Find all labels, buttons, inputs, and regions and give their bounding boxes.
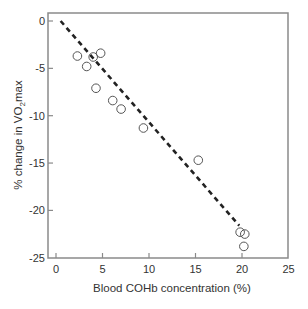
data-point-circle (108, 96, 117, 105)
y-axis-title-prefix: % change in VO (12, 106, 24, 189)
data-point-circle (82, 62, 91, 71)
plot-frame (48, 13, 288, 258)
data-point-circle (194, 156, 203, 165)
x-tick-label: 0 (53, 263, 59, 275)
data-point-circle (92, 84, 101, 93)
data-point-circle (73, 52, 82, 61)
x-tick-label: 20 (236, 263, 248, 275)
x-axis-title: Blood COHb concentration (%) (93, 282, 251, 294)
scatter-chart: 0510152025 0-5-10-15-20-25 Blood COHb co… (0, 0, 308, 309)
y-tick-label: -10 (29, 110, 45, 122)
y-tick-label: -5 (35, 62, 45, 74)
data-point-circle (96, 49, 105, 58)
x-tick-label: 5 (99, 263, 105, 275)
y-axis-title-suffix: max (12, 80, 24, 102)
x-tick-label: 10 (143, 263, 155, 275)
y-axis-ticks: 0-5-10-15-20-25 (29, 15, 53, 264)
data-point-circle (117, 105, 126, 114)
x-axis-ticks: 0510152025 (53, 253, 295, 275)
data-point-circle (240, 242, 249, 251)
x-tick-label: 25 (282, 263, 294, 275)
y-tick-label: 0 (39, 15, 45, 27)
data-point-circle (240, 230, 249, 239)
data-point-circle (139, 124, 148, 133)
y-tick-label: -15 (29, 157, 45, 169)
y-axis-title: % change in VO2max (12, 80, 27, 190)
y-tick-label: -20 (29, 204, 45, 216)
x-tick-label: 15 (189, 263, 201, 275)
regression-line (61, 21, 240, 226)
y-tick-label: -25 (29, 252, 45, 264)
regression-line-path (61, 21, 240, 226)
data-points (73, 49, 249, 251)
